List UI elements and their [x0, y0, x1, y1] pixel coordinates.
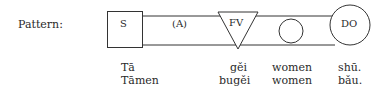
subject-symbol: S [120, 18, 127, 29]
example-verb: gěi [230, 61, 247, 74]
adverbial-symbol: (A) [172, 18, 187, 29]
example-subject: Tā [121, 61, 135, 74]
example-verb: bugěi [219, 74, 250, 87]
example-indirect-object: women [272, 61, 312, 74]
indirect-object-circle [279, 19, 303, 43]
example-direct-object: bǎu. [338, 74, 362, 87]
functive-verb-symbol: FV [229, 17, 243, 28]
direct-object-symbol: DO [341, 18, 357, 29]
example-direct-object: shū. [338, 61, 361, 74]
subject-box [108, 12, 143, 48]
example-indirect-object: women [272, 74, 312, 87]
sentence-pattern-diagram [0, 0, 387, 90]
example-subject: Tāmen [121, 74, 159, 87]
